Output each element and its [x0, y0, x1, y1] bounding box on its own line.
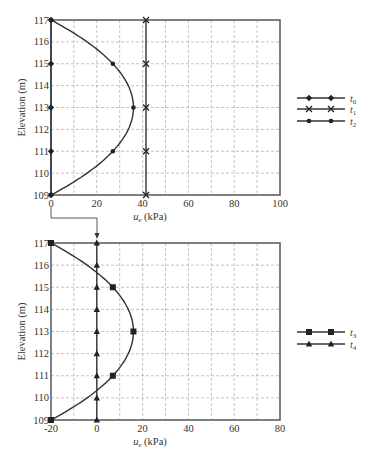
y-tick-label: 111 — [34, 146, 49, 157]
x-tick-label: 80 — [229, 198, 240, 209]
diamond-marker — [328, 95, 334, 101]
circle-marker — [307, 119, 312, 124]
bottom-chart: 109110111112113114115116117-20020406080E… — [16, 238, 357, 450]
x-tick-label: 60 — [229, 423, 240, 434]
legend-item-t4: t4 — [297, 339, 357, 352]
triangle-marker — [94, 328, 100, 334]
triangle-marker — [94, 350, 100, 356]
square-marker — [48, 240, 54, 246]
x-axis-label: ue (kPa) — [133, 436, 167, 449]
y-tick-label: 113 — [34, 102, 49, 113]
y-tick-label: 116 — [34, 36, 49, 47]
circle-marker — [111, 61, 116, 66]
top-chart: 109110111112113114115116117020406080100E… — [16, 15, 357, 225]
y-tick-label: 115 — [34, 58, 49, 69]
x-tick-label: 0 — [94, 423, 99, 434]
y-tick-label: 112 — [34, 348, 49, 359]
x-axis-label: ue (kPa) — [133, 211, 167, 224]
grid — [51, 20, 280, 195]
y-tick-label: 111 — [34, 370, 49, 381]
legend: t3t4 — [297, 327, 357, 352]
square-marker — [110, 284, 116, 290]
x-tick-label: 20 — [92, 198, 103, 209]
y-tick-label: 112 — [34, 124, 49, 135]
y-tick-label: 109 — [33, 190, 49, 201]
y-tick-label: 115 — [34, 282, 49, 293]
svg-text:t2: t2 — [350, 116, 357, 129]
x-tick-label: 40 — [183, 423, 194, 434]
circle-marker — [329, 119, 334, 124]
triangle-marker — [94, 306, 100, 312]
x-tick-label: 60 — [183, 198, 194, 209]
y-tick-label: 114 — [34, 304, 50, 315]
square-marker — [110, 373, 116, 379]
square-marker — [306, 329, 312, 335]
y-axis-label: Elevation (m) — [16, 78, 28, 137]
square-marker — [48, 417, 54, 423]
y-axis-label: Elevation (m) — [16, 302, 28, 361]
y-tick-label: 116 — [34, 260, 49, 271]
triangle-marker — [94, 284, 100, 290]
x-tick-label: 40 — [137, 198, 148, 209]
grid — [51, 243, 280, 420]
triangle-marker — [94, 394, 100, 400]
legend: t0t1t2 — [297, 93, 357, 129]
y-tick-label: 110 — [34, 168, 49, 179]
diamond-marker — [306, 95, 312, 101]
square-marker — [328, 329, 334, 335]
triangle-marker — [94, 262, 100, 268]
circle-marker — [111, 149, 116, 154]
legend-item-t0: t0 — [297, 93, 357, 106]
circle-marker — [49, 18, 54, 23]
svg-text:t4: t4 — [350, 339, 357, 352]
legend-item-t2: t2 — [297, 116, 357, 129]
connector-arrow — [51, 207, 100, 239]
circle-marker — [49, 193, 54, 198]
series-t4 — [94, 240, 100, 423]
y-tick-label: 114 — [34, 80, 50, 91]
figure: 109110111112113114115116117020406080100E… — [0, 0, 370, 466]
legend-item-t3: t3 — [297, 327, 357, 340]
square-marker — [130, 329, 136, 335]
triangle-marker — [94, 372, 100, 378]
y-tick-label: 113 — [34, 326, 49, 337]
y-tick-label: 110 — [34, 392, 49, 403]
legend-item-t1: t1 — [297, 104, 357, 117]
x-tick-label: -20 — [44, 423, 58, 434]
y-tick-label: 117 — [34, 15, 49, 26]
y-tick-label: 117 — [34, 238, 49, 249]
x-tick-label: 80 — [275, 423, 286, 434]
circle-marker — [131, 105, 136, 110]
x-tick-label: 100 — [272, 198, 288, 209]
x-tick-label: 20 — [137, 423, 148, 434]
